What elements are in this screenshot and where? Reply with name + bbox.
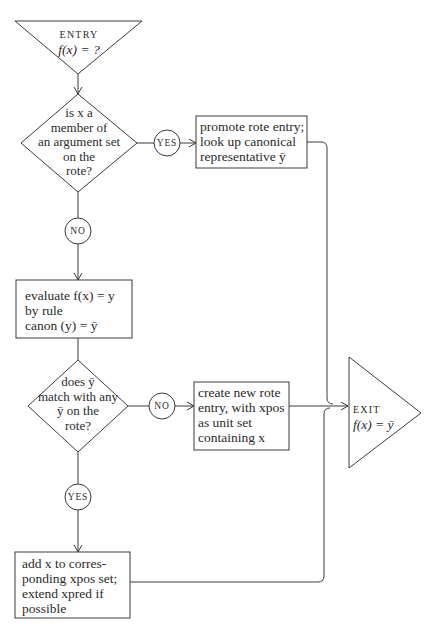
exit-label: EXIT	[353, 402, 413, 417]
create-line: as unit set	[198, 415, 290, 430]
exit-terminal: EXIT f(x) = ȳ	[353, 402, 413, 432]
add-line: add x to corres-	[22, 556, 130, 571]
promote-rote-entry-box: promote rote entry; look up canonical re…	[200, 119, 306, 164]
promote-line: promote rote entry;	[200, 119, 306, 134]
create-line: create new rote	[198, 385, 290, 400]
no-label-2: NO	[149, 393, 175, 419]
decision-does-match: does ȳ match with any ȳ on the rote?	[26, 375, 130, 433]
evaluate-box: evaluate f(x) = y by rule canon (y) = ȳ	[25, 288, 131, 333]
decision1-line: on the	[22, 150, 136, 165]
evaluate-line: by rule	[25, 303, 131, 318]
evaluate-line: canon (y) = ȳ	[25, 318, 131, 333]
decision-is-member: is x a member of an argument set on the …	[22, 106, 136, 179]
add-line: ponding xpos set;	[22, 571, 130, 586]
entry-formula: f(x) = ?	[40, 42, 118, 57]
entry-terminal: ENTRY f(x) = ?	[40, 27, 118, 57]
decision1-line: rote?	[22, 164, 136, 179]
create-line: entry, with xpos	[198, 400, 290, 415]
create-line: containing x	[198, 430, 290, 445]
evaluate-line: evaluate f(x) = y	[25, 288, 131, 303]
no-label-1: NO	[65, 218, 91, 244]
exit-formula: f(x) = ȳ	[353, 417, 413, 432]
yes-label-1: YES	[154, 130, 180, 156]
create-rote-entry-box: create new rote entry, with xpos as unit…	[198, 385, 290, 445]
promote-line: representative ȳ	[200, 149, 306, 164]
add-line: possible	[22, 601, 130, 616]
yes-label-2: YES	[65, 484, 91, 510]
entry-label: ENTRY	[40, 27, 118, 42]
decision1-line: member of	[22, 121, 136, 136]
promote-line: look up canonical	[200, 134, 306, 149]
decision2-line: does ȳ	[26, 375, 130, 390]
add-line: extend xpred if	[22, 586, 130, 601]
decision1-line: an argument set	[22, 135, 136, 150]
decision2-line: ȳ on the	[26, 404, 130, 419]
decision2-line: rote?	[26, 419, 130, 434]
decision1-line: is x a	[22, 106, 136, 121]
add-to-xpos-box: add x to corres- ponding xpos set; exten…	[22, 556, 130, 616]
decision2-line: match with any	[26, 390, 130, 405]
